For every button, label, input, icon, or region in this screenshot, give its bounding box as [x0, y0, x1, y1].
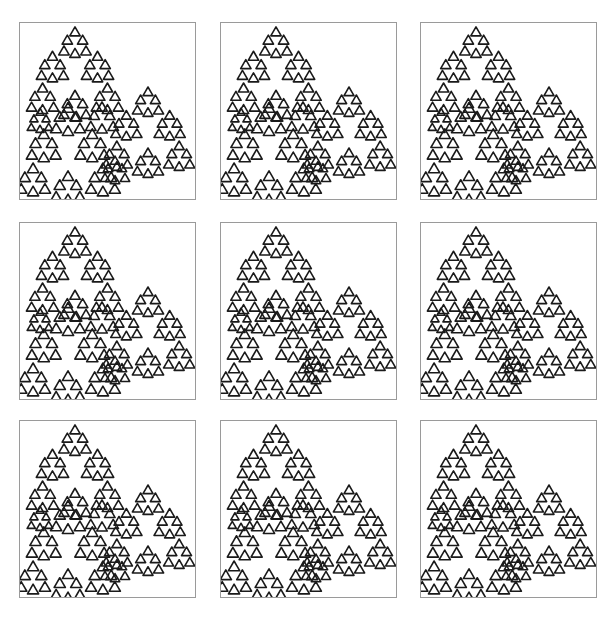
- fractal-canvas: [20, 223, 195, 399]
- fractal-canvas: [20, 23, 195, 199]
- fractal-panel: [420, 222, 597, 400]
- fractal-canvas: [421, 223, 596, 399]
- fractal-panel: [220, 222, 397, 400]
- fractal-grid: [0, 0, 615, 617]
- fractal-panel: [220, 420, 397, 598]
- fractal-canvas: [421, 421, 596, 597]
- fractal-panel: [420, 420, 597, 598]
- fractal-canvas: [221, 23, 396, 199]
- fractal-panel: [420, 22, 597, 200]
- fractal-canvas: [421, 23, 596, 199]
- fractal-canvas: [20, 421, 195, 597]
- fractal-canvas: [221, 421, 396, 597]
- fractal-panel: [19, 420, 196, 598]
- fractal-canvas: [221, 223, 396, 399]
- fractal-panel: [19, 22, 196, 200]
- fractal-panel: [19, 222, 196, 400]
- fractal-panel: [220, 22, 397, 200]
